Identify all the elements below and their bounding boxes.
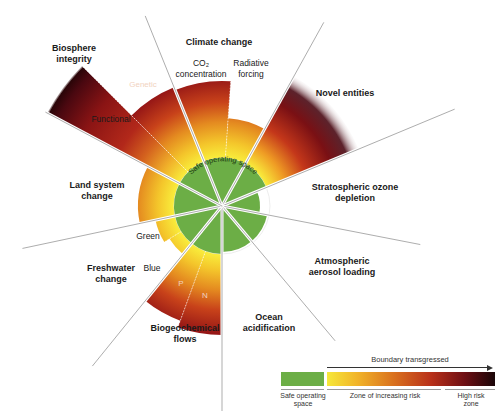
aerosol-label-2: aerosol loading xyxy=(309,267,376,277)
land-label-2: change xyxy=(81,191,113,201)
legend-arrow-line xyxy=(327,367,489,368)
freshwater-label-2: change xyxy=(95,274,127,284)
legend-high-label: High risk zone xyxy=(448,392,494,408)
ozone-label-1: Stratospheric ozone xyxy=(312,182,399,192)
label-radiative-forcing: Radiative forcing xyxy=(229,58,273,80)
land-label-1: Land system xyxy=(69,180,124,190)
legend-zone-underline xyxy=(327,389,441,390)
legend-risk-gradient xyxy=(327,372,495,386)
freshwater-label-1: Freshwater xyxy=(87,263,135,273)
concentration-label: concentration xyxy=(175,69,226,79)
legend-high-label-1: High risk xyxy=(457,392,484,399)
legend-safe-label: Safe operating space xyxy=(276,392,330,408)
legend-title: Boundary transgressed xyxy=(340,355,480,364)
bgc-label-1: Biogeochemical xyxy=(150,323,219,333)
aerosol-label-1: Atmospheric xyxy=(314,256,369,266)
biosphere-label-2: integrity xyxy=(56,54,92,64)
legend-safe-swatch xyxy=(281,372,324,386)
radiative-label: Radiative xyxy=(233,58,268,68)
label-nitrogen: N xyxy=(200,290,210,301)
label-land-system-change: Land system change xyxy=(62,180,132,202)
legend-safe-underline xyxy=(281,389,324,390)
ocean-label-2: acidification xyxy=(243,323,296,333)
legend-high-label-2: zone xyxy=(463,400,478,407)
label-biosphere-integrity: Biosphere integrity xyxy=(48,43,100,65)
ozone-label-2: depletion xyxy=(335,193,375,203)
label-climate-change: Climate change xyxy=(174,37,264,48)
label-co2-concentration: CO₂ concentration xyxy=(173,58,229,80)
legend-safe-label-1: Safe operating xyxy=(280,392,326,399)
label-stratospheric-ozone: Stratospheric ozone depletion xyxy=(305,182,405,204)
ocean-label-1: Ocean xyxy=(255,312,283,322)
label-genetic: Genetic xyxy=(125,79,161,90)
label-novel-entities: Novel entities xyxy=(305,88,385,99)
label-green-water: Green xyxy=(133,231,163,242)
arrow-right-icon xyxy=(487,365,493,371)
co2-label: CO₂ xyxy=(193,58,209,68)
label-ocean-acidification: Ocean acidification xyxy=(238,312,300,334)
bgc-label-2: flows xyxy=(173,334,196,344)
legend-zone-label: Zone of increasing risk xyxy=(330,392,440,400)
label-blue-water: Blue xyxy=(140,263,164,274)
legend-high-underline xyxy=(445,389,495,390)
label-biogeochemical-flows: Biogeochemical flows xyxy=(145,323,225,345)
biosphere-label-1: Biosphere xyxy=(52,43,96,53)
legend-safe-label-2: space xyxy=(294,400,313,407)
label-phosphorus: P xyxy=(176,278,186,289)
label-functional: Functional xyxy=(88,114,134,125)
forcing-label: forcing xyxy=(238,69,264,79)
label-atmospheric-aerosol: Atmospheric aerosol loading xyxy=(298,256,386,278)
label-freshwater-change: Freshwater change xyxy=(80,263,142,285)
legend: Boundary transgressed Safe operating spa… xyxy=(280,360,496,415)
